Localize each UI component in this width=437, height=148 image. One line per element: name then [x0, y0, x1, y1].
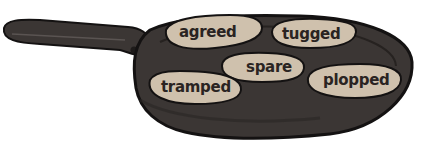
skillet-illustration: agreed tugged spare tramped plopped — [0, 0, 437, 148]
sausage-label-agreed: agreed — [179, 23, 237, 41]
sausage-label-spare: spare — [246, 58, 292, 76]
sausage-label-tugged: tugged — [282, 25, 340, 43]
sausage-label-tramped: tramped — [161, 78, 231, 96]
sausage-label-plopped: plopped — [323, 71, 389, 89]
